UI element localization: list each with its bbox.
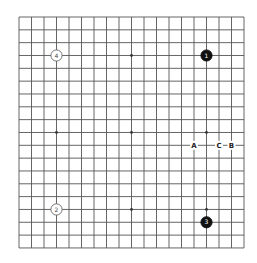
star-point	[130, 208, 133, 211]
move-number: 4	[55, 52, 59, 59]
stone-white-2: 2	[51, 204, 62, 215]
marker-b: B	[228, 141, 236, 150]
go-board[interactable]: ACB 1234	[0, 0, 257, 263]
stone-white-4: 4	[51, 50, 62, 61]
star-point	[205, 208, 208, 211]
star-point	[130, 131, 133, 134]
marker-label: C	[216, 142, 221, 150]
stone-black-3: 3	[201, 217, 212, 228]
move-number: 3	[205, 218, 209, 225]
marker-a: A	[190, 141, 198, 150]
move-number: 2	[55, 206, 59, 213]
star-point	[55, 131, 58, 134]
stone-black-1: 1	[201, 50, 212, 61]
move-number: 1	[205, 52, 209, 59]
marker-c: C	[215, 141, 223, 150]
marker-label: B	[229, 142, 234, 150]
star-point	[130, 54, 133, 57]
star-point	[205, 131, 208, 134]
marker-label: A	[191, 142, 197, 150]
